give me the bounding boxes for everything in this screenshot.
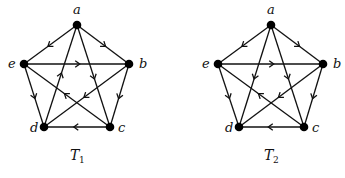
vertex-label-c: c: [312, 120, 320, 135]
vertex-b: [125, 60, 134, 69]
vertex-label-e: e: [8, 56, 16, 71]
vertex-d: [235, 123, 244, 132]
graph-caption-subscript: 1: [79, 155, 85, 165]
vertex-label-d: d: [225, 120, 233, 135]
vertex-label-d: d: [30, 120, 38, 135]
vertex-label-a: a: [73, 2, 81, 17]
edge-e-d: [218, 64, 239, 127]
edge-a-c: [77, 25, 110, 127]
vertex-label-c: c: [118, 120, 126, 135]
vertex-label-e: e: [202, 56, 210, 71]
edge-b-d: [239, 64, 323, 127]
edge-e-d: [24, 64, 44, 127]
vertex-a: [267, 21, 276, 30]
edge-a-c: [271, 25, 304, 127]
edge-c-e: [24, 64, 110, 127]
edge-b-c: [110, 64, 129, 127]
vertex-e: [214, 60, 223, 69]
edge-a-b: [271, 25, 323, 64]
tournament-diagrams: abcdeT1 abcdeT2: [0, 0, 345, 178]
edge-d-a: [44, 25, 77, 127]
vertex-label-a: a: [267, 2, 275, 17]
vertex-b: [319, 60, 328, 69]
vertex-e: [20, 60, 29, 69]
edge-b-c: [304, 64, 323, 127]
edge-b-d: [44, 64, 129, 127]
vertex-c: [300, 123, 309, 132]
graph-caption-subscript: 2: [273, 155, 279, 165]
vertex-c: [106, 123, 115, 132]
vertex-label-b: b: [333, 56, 341, 71]
vertex-d: [40, 123, 49, 132]
edge-a-e: [218, 25, 271, 64]
tournament-t2: abcdeT2: [202, 2, 341, 165]
vertex-label-b: b: [139, 56, 147, 71]
vertex-a: [73, 21, 82, 30]
tournament-t1: abcdeT1: [8, 2, 147, 165]
edge-a-d: [239, 25, 271, 127]
edge-a-b: [77, 25, 129, 64]
edge-a-e: [24, 25, 77, 64]
